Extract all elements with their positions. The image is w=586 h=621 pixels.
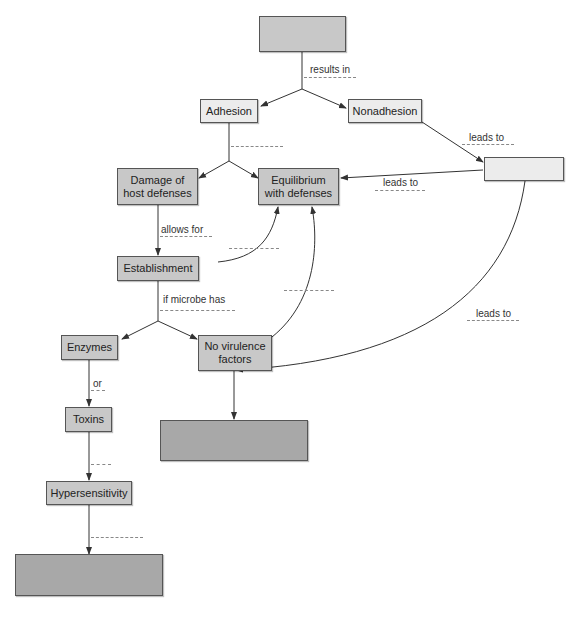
no-virulence-node[interactable]: No virulence factors <box>198 335 272 371</box>
blank-if-microbe-has[interactable] <box>160 310 235 311</box>
blank-results-in[interactable] <box>304 77 356 78</box>
equilibrium-node[interactable]: Equilibrium with defenses <box>258 168 339 205</box>
blank-or[interactable] <box>91 390 105 391</box>
blank-leads-to-1[interactable] <box>462 144 514 145</box>
blank-establishment-equilibrium[interactable] <box>229 248 279 249</box>
label-leads-to-2: leads to <box>383 177 418 188</box>
label-results-in: results in <box>310 64 350 75</box>
blank-no-virulence-equilibrium[interactable] <box>284 290 334 291</box>
damage-node[interactable]: Damage of host defenses <box>117 168 198 205</box>
establishment-node[interactable]: Establishment <box>117 256 199 281</box>
toxins-node[interactable]: Toxins <box>65 407 112 432</box>
enzymes-node[interactable]: Enzymes <box>61 335 118 360</box>
bottom-blank-node[interactable] <box>15 554 163 596</box>
blank-adhesion[interactable] <box>231 146 283 147</box>
hypersensitivity-node[interactable]: Hypersensitivity <box>46 481 132 505</box>
label-leads-to-1: leads to <box>469 132 504 143</box>
blank-leads-to-2[interactable] <box>375 190 425 191</box>
blank-leads-to-3[interactable] <box>467 320 519 321</box>
label-leads-to-3: leads to <box>476 308 511 319</box>
blank-toxins-hypersensitivity[interactable] <box>91 464 111 465</box>
top-blank-node[interactable] <box>259 16 346 52</box>
label-allows-for: allows for <box>161 224 203 235</box>
blank-hypersensitivity-bottom[interactable] <box>91 537 143 538</box>
nonadhesion-node[interactable]: Nonadhesion <box>348 99 422 123</box>
middle-bottom-blank-node[interactable] <box>160 420 308 461</box>
right-blank-node[interactable] <box>484 157 564 181</box>
blank-allows-for[interactable] <box>160 236 212 237</box>
label-if-microbe-has: if microbe has <box>163 294 225 305</box>
label-or: or <box>93 378 102 389</box>
adhesion-node[interactable]: Adhesion <box>200 99 258 123</box>
